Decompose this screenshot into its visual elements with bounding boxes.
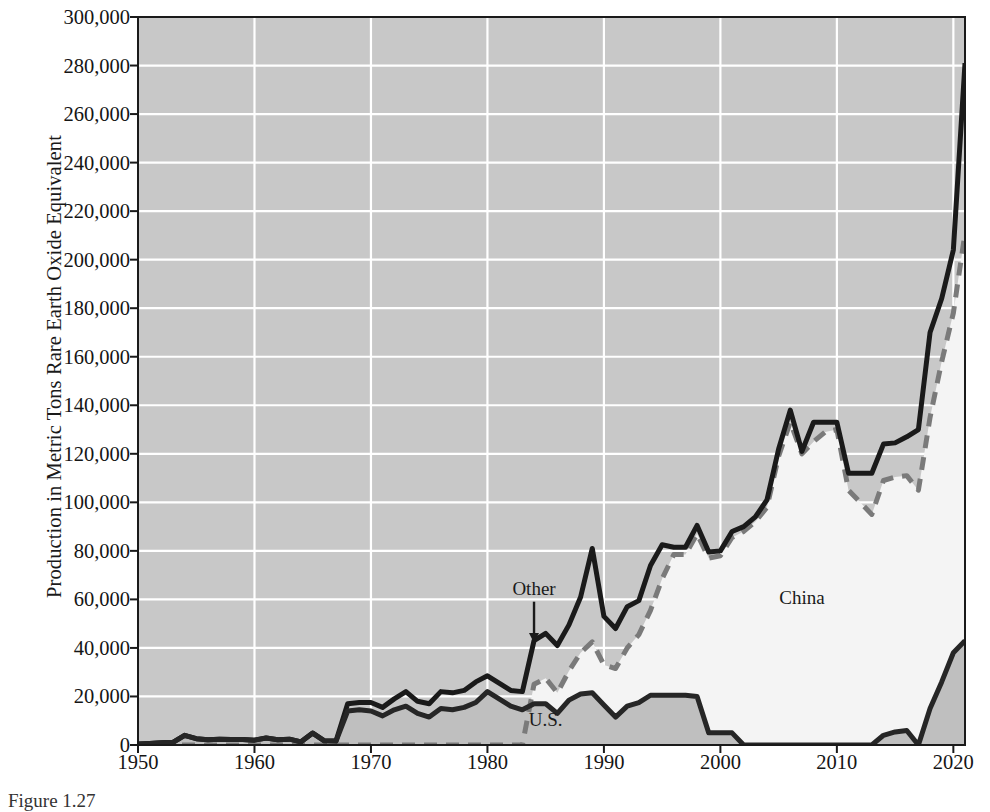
x-tick-label: 1960 <box>234 752 275 773</box>
x-tick-label: 1980 <box>467 752 508 773</box>
x-tick-label: 2010 <box>816 752 857 773</box>
figure-caption: Figure 1.27 <box>8 790 96 812</box>
other-label: Other <box>512 578 555 600</box>
us-label: U.S. <box>529 709 563 731</box>
x-tick-label: 1990 <box>583 752 624 773</box>
x-tick-label: 1970 <box>350 752 391 773</box>
x-tick-label: 2020 <box>933 752 974 773</box>
china-label: China <box>779 587 824 609</box>
x-tick-label: 2000 <box>700 752 741 773</box>
x-tick-label: 1950 <box>118 752 159 773</box>
